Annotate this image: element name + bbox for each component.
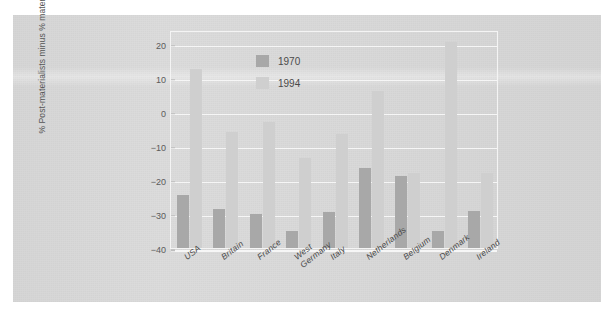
y-tick-label: 10 <box>156 75 166 85</box>
bar <box>286 231 298 248</box>
bar <box>359 168 371 248</box>
legend-swatch <box>256 55 269 67</box>
y-tick-label: −40 <box>151 245 166 255</box>
legend-entry: 1970 <box>256 50 300 72</box>
y-tick-label: −10 <box>151 143 166 153</box>
y-tick-mark <box>171 249 175 251</box>
y-tick-label: 20 <box>156 41 166 51</box>
bar <box>177 195 189 248</box>
bar <box>336 134 348 248</box>
bar <box>372 91 384 248</box>
y-tick-label: −30 <box>151 211 166 221</box>
bar <box>445 42 457 248</box>
legend-label: 1970 <box>278 56 300 67</box>
bar <box>190 69 202 248</box>
legend-swatch <box>256 77 269 89</box>
y-tick-label: 0 <box>161 109 166 119</box>
y-tick-label: −20 <box>151 177 166 187</box>
bar <box>263 122 275 248</box>
chart-legend: 19701994 <box>256 50 300 94</box>
bar <box>468 211 480 248</box>
bar <box>213 209 225 248</box>
bar <box>408 173 420 248</box>
bar <box>226 132 238 248</box>
bar <box>250 214 262 248</box>
bar <box>481 173 493 248</box>
y-axis-label: % Post-materialists minus % materialists <box>37 0 47 150</box>
bar <box>432 231 444 248</box>
legend-label: 1994 <box>278 78 300 89</box>
figure-container: % Post-materialists minus % materialists… <box>0 0 615 318</box>
legend-entry: 1994 <box>256 72 300 94</box>
plot-area: 20100−10−20−30−40 19701994 <box>170 31 498 249</box>
bar <box>299 158 311 248</box>
bars-layer <box>171 32 497 248</box>
